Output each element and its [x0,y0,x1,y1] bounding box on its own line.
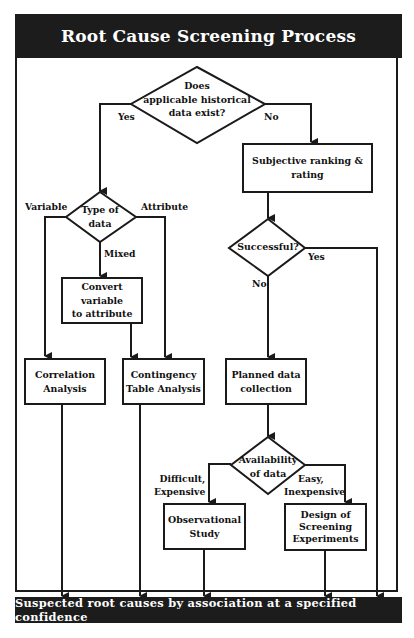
text-line: Expensive [154,485,205,498]
text-line: data [70,217,130,231]
edge-label-yes-successful: Yes [308,250,325,263]
edge-label-no-historical: No [264,110,279,123]
text-line: Analysis [35,382,95,396]
edge-label-difficult: Difficult, Expensive [154,472,205,499]
text-line: to attribute [63,307,141,321]
edge-label-no-successful: No [252,277,267,290]
edge-label-yes-historical: Yes [118,110,135,123]
text-line: Study [168,527,241,541]
text-line: collection [231,382,300,396]
process-subjective-ranking: Subjective ranking & rating [242,143,373,193]
text-line: Experiments [292,533,358,545]
text-line: Difficult, [157,472,205,485]
text-line: Type of [70,203,130,217]
text-line: Table Analysis [126,382,201,396]
process-design-screening: Design of Screening Experiments [284,503,367,551]
box-label: Subjective ranking & rating [244,154,371,181]
process-correlation-analysis: Correlation Analysis [24,358,106,405]
text-line: data exist? [137,106,257,120]
text-line: Does [137,79,257,93]
text-line: Contingency [126,368,201,382]
edge-label-mixed: Mixed [104,247,135,260]
text-line: Convert variable [63,280,141,307]
process-observational-study: Observational Study [163,503,246,550]
process-convert-variable: Convert variable to attribute [61,277,143,324]
process-planned-data: Planned data collection [225,358,307,405]
text-line: Design of [292,509,358,521]
text-line: Planned data [231,368,300,382]
edge-label-easy: Easy, Inexpensive [284,472,345,499]
edge-label-variable: Variable [25,200,67,213]
process-contingency-table: Contingency Table Analysis [122,358,205,405]
decision-historical-text: Does applicable historical data exist? [137,79,257,120]
edge-label-attribute: Attribute [141,200,188,213]
text-line: Observational [168,513,241,527]
text-line: Availability [234,453,302,467]
text-line: Correlation [35,368,95,382]
outcome-bar: Suspected root causes by association at … [15,597,402,623]
text-line: applicable historical [137,93,257,107]
text-line: Easy, [298,472,345,485]
decision-type-text: Type of data [70,203,130,230]
text-line: Inexpensive [284,485,345,498]
text-line: Screening [292,521,358,533]
decision-successful-text: Successful? [232,240,304,254]
